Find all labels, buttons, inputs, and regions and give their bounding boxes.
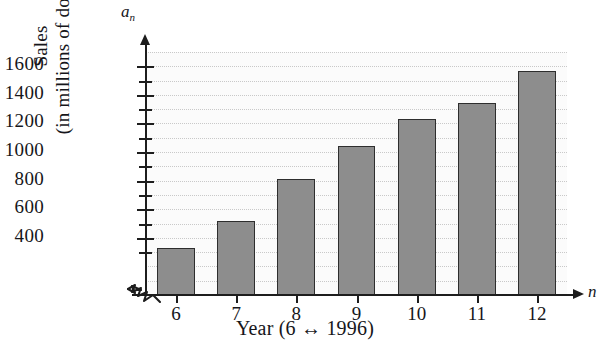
- y-tick-minor: [139, 138, 152, 140]
- gridline: [146, 95, 567, 96]
- gridline: [146, 81, 567, 82]
- gridline: [146, 123, 567, 124]
- axis-break-zigzag-icon: [126, 273, 186, 305]
- x-axis-variable-label: n: [588, 282, 597, 302]
- gridline: [146, 109, 567, 110]
- y-axis-arrow: [140, 34, 150, 45]
- y-axis-variable-label: an: [121, 2, 135, 23]
- x-axis-line: [132, 294, 575, 296]
- y-tick-label: 1600: [5, 53, 44, 75]
- gridline: [146, 66, 567, 67]
- y-tick-label: 800: [15, 168, 44, 190]
- y-tick-minor: [139, 166, 152, 168]
- y-tick-label: 400: [15, 225, 44, 247]
- x-tick: [357, 294, 359, 303]
- y-tick-label: 1000: [5, 139, 44, 161]
- x-tick: [296, 294, 298, 303]
- y-tick-major: [137, 209, 154, 211]
- x-tick: [417, 294, 419, 303]
- x-axis-arrow: [573, 289, 584, 299]
- y-tick-minor: [139, 109, 152, 111]
- y-tick-minor: [139, 81, 152, 83]
- y-tick-label: 1200: [5, 110, 44, 132]
- y-tick-label: 1400: [5, 82, 44, 104]
- y-tick-minor: [139, 224, 152, 226]
- y-axis-variable-subscript: n: [130, 11, 136, 23]
- y-tick-minor: [139, 195, 152, 197]
- y-tick-minor: [139, 252, 152, 254]
- x-tick: [236, 294, 238, 303]
- bar: [518, 71, 556, 295]
- bar: [277, 179, 315, 295]
- y-tick-major: [137, 181, 154, 183]
- plot-area: [146, 52, 567, 295]
- y-axis-variable-base: a: [121, 2, 130, 21]
- gridline: [146, 52, 567, 53]
- y-tick-major: [137, 66, 154, 68]
- bar: [338, 146, 376, 295]
- y-tick-major: [137, 95, 154, 97]
- x-axis-title: Year (6 ↔ 1996): [0, 317, 610, 340]
- bar: [217, 221, 255, 295]
- y-tick-major: [137, 238, 154, 240]
- y-tick-major: [137, 123, 154, 125]
- gridline: [146, 138, 567, 139]
- x-tick: [537, 294, 539, 303]
- bar: [458, 103, 496, 295]
- x-tick: [477, 294, 479, 303]
- bar: [398, 119, 436, 295]
- y-tick-label: 600: [15, 196, 44, 218]
- y-tick-major: [137, 152, 154, 154]
- bar-chart: (in millions of dollars) Sales an n 4006…: [0, 0, 610, 354]
